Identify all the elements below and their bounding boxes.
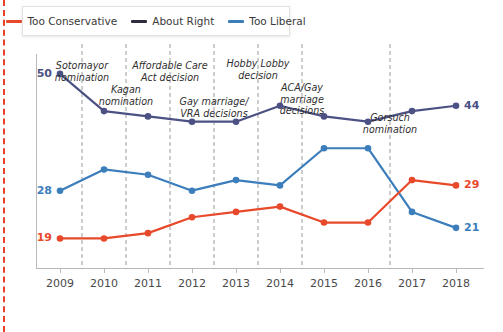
line-swatch-icon xyxy=(6,20,22,23)
x-tick-mark xyxy=(324,269,325,273)
x-tick-mark xyxy=(412,269,413,273)
data-point xyxy=(321,219,328,226)
data-point xyxy=(365,219,372,226)
x-tick-mark xyxy=(148,269,149,273)
x-tick-label: 2018 xyxy=(442,277,470,290)
event-annotation: Gorsuch nomination xyxy=(344,112,436,135)
data-point xyxy=(189,187,196,194)
data-point xyxy=(277,182,284,189)
value-label: 21 xyxy=(464,221,479,234)
event-annotation: Gay marriage/ VRA decisions xyxy=(168,96,260,119)
value-label: 28 xyxy=(37,184,52,197)
data-point xyxy=(189,118,196,125)
line-swatch-icon xyxy=(131,20,147,23)
chart-root: Too Conservative About Right Too Liberal… xyxy=(0,0,503,332)
value-label: 19 xyxy=(37,231,52,244)
left-edge-dashed-marker xyxy=(3,0,5,332)
x-tick-label: 2010 xyxy=(90,277,118,290)
x-tick-label: 2009 xyxy=(46,277,74,290)
legend-label: Too Liberal xyxy=(249,15,305,27)
x-tick-mark xyxy=(192,269,193,273)
data-point xyxy=(101,108,108,115)
data-point xyxy=(233,177,240,184)
data-point xyxy=(409,177,416,184)
x-tick-label: 2015 xyxy=(310,277,338,290)
value-label: 44 xyxy=(464,99,479,112)
data-point xyxy=(145,171,152,178)
data-point xyxy=(189,214,196,221)
event-annotation: Hobby Lobby decision xyxy=(212,58,304,81)
legend-label: Too Conservative xyxy=(27,15,117,27)
data-point xyxy=(409,209,416,216)
x-tick-mark xyxy=(60,269,61,273)
event-annotation: Kagan nomination xyxy=(80,84,172,107)
data-point xyxy=(145,230,152,237)
data-point xyxy=(57,235,64,242)
data-point xyxy=(453,225,460,232)
line-swatch-icon xyxy=(228,20,244,23)
legend-item-about-right: About Right xyxy=(131,15,214,27)
x-tick-label: 2012 xyxy=(178,277,206,290)
data-point xyxy=(233,209,240,216)
data-point xyxy=(101,166,108,173)
event-annotation: Affordable Care Act decision xyxy=(124,60,216,83)
x-tick-mark xyxy=(104,269,105,273)
data-point xyxy=(57,187,64,194)
legend-label: About Right xyxy=(152,15,214,27)
data-point xyxy=(453,182,460,189)
value-label: 50 xyxy=(37,67,52,80)
data-point xyxy=(321,145,328,152)
x-tick-label: 2013 xyxy=(222,277,250,290)
legend-item-too-conservative: Too Conservative xyxy=(6,15,117,27)
x-tick-mark xyxy=(368,269,369,273)
x-tick-label: 2014 xyxy=(266,277,294,290)
data-point xyxy=(145,113,152,120)
event-annotation: ACA/Gay marriage decisions xyxy=(256,82,348,117)
x-tick-mark xyxy=(280,269,281,273)
data-point xyxy=(453,102,460,109)
data-point xyxy=(277,203,284,210)
data-point xyxy=(101,235,108,242)
value-label: 29 xyxy=(464,178,479,191)
x-tick-mark xyxy=(236,269,237,273)
data-point xyxy=(233,118,240,125)
x-tick-label: 2017 xyxy=(398,277,426,290)
data-point xyxy=(365,145,372,152)
x-tick-mark xyxy=(456,269,457,273)
x-tick-label: 2011 xyxy=(134,277,162,290)
legend-item-too-liberal: Too Liberal xyxy=(228,15,305,27)
x-tick-label: 2016 xyxy=(354,277,382,290)
chart-legend: Too Conservative About Right Too Liberal xyxy=(22,6,290,36)
